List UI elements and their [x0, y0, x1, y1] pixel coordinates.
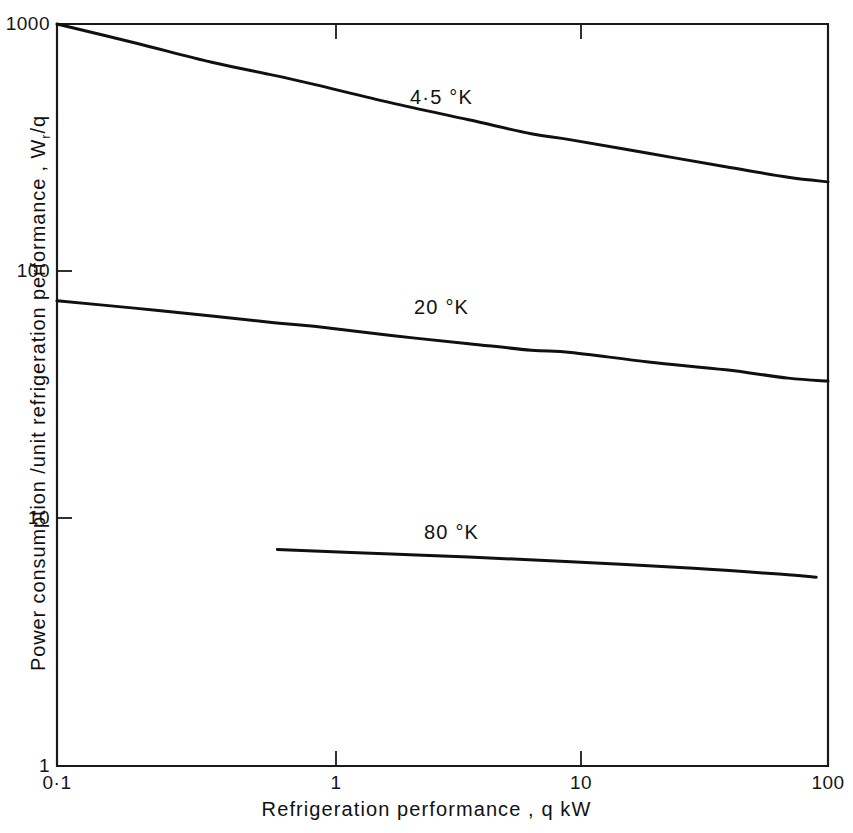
- y-axis-title-tail: /q: [27, 115, 49, 133]
- log-log-chart-canvas: [0, 0, 853, 833]
- series-curve-2: [277, 550, 816, 578]
- plot-frame: [57, 24, 828, 766]
- x-tick-label-10: 10: [551, 772, 611, 794]
- x-tick-label-1: 1: [306, 772, 366, 794]
- x-tick-label-100: 100: [795, 772, 853, 794]
- y-axis-title: Power consumption /unit refrigeration pe…: [27, 13, 53, 773]
- x-axis-title: Refrigeration performance , q kW: [0, 798, 853, 821]
- figure-container: 1000 100 10 1 0·1 1 10 100 4·5 °K 20 °K …: [0, 0, 853, 833]
- y-axis-title-subscript: r: [38, 133, 53, 138]
- series-label-80K: 80 °K: [424, 521, 479, 544]
- y-axis-title-main: Power consumption /unit refrigeration pe…: [27, 139, 49, 671]
- x-tick-label-0-1: 0·1: [27, 772, 87, 794]
- series-label-4-5K: 4·5 °K: [410, 86, 473, 109]
- axis-frame-path: [57, 24, 828, 766]
- axis-ticks: [57, 24, 581, 766]
- series-label-20K: 20 °K: [414, 296, 469, 319]
